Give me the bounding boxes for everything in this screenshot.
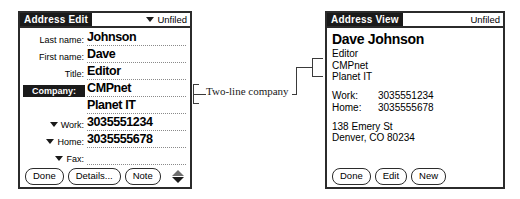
address-view-device: Address View Unfiled Dave Johnson Editor… [325,11,505,189]
field-value-title[interactable]: Editor [87,65,186,80]
done-button[interactable]: Done [332,168,371,185]
contact-address-line1: 138 Emery St [332,121,499,133]
scroll-up-arrow-icon[interactable] [172,170,184,176]
edit-form: Last name: Johnson First name: Dave Titl… [20,28,190,159]
contact-company-line2: Planet IT [332,71,499,83]
field-row-home-phone[interactable]: Home: 3035555678 [23,132,186,148]
edit-button[interactable]: Edit [375,168,407,185]
field-row-first-name[interactable]: First name: Dave [23,47,186,63]
chevron-down-icon [146,17,154,22]
contact-full-name: Dave Johnson [332,31,499,47]
edit-button-bar: Done Details... Note [20,161,190,187]
field-row-work-phone[interactable]: Work: 3035551234 [23,115,186,131]
scroll-control[interactable] [172,170,184,183]
contact-company-line1: CMPnet [332,60,499,72]
home-phone-number: 3035555678 [378,102,499,114]
field-label-home-phone[interactable]: Home: [23,136,87,148]
view-record-body: Dave Johnson Editor CMPnet Planet IT Wor… [327,28,503,159]
field-value-home-phone[interactable]: 3035555678 [87,133,186,148]
field-label-first-name: First name: [23,51,87,63]
contact-title: Editor [332,48,499,60]
field-row-title[interactable]: Title: Editor [23,64,186,80]
contact-home-phone: Home: 3035555678 [332,102,499,114]
view-title-bar: Address View Unfiled [327,13,503,28]
work-phone-label: Work: [332,90,378,102]
field-label-company-selected: Company: [23,85,85,97]
note-button[interactable]: Note [125,168,161,185]
field-value-last-name[interactable]: Johnson [87,31,186,46]
edit-title-bar: Address Edit Unfiled [20,13,190,28]
spacer [332,114,499,121]
field-row-company-line2[interactable]: Planet IT [23,98,186,114]
annotation-label: Two-line company [206,85,289,98]
edit-category-selector[interactable]: Unfiled [146,14,187,26]
field-value-company-line1[interactable]: CMPnet [87,82,186,97]
field-label-last-name: Last name: [23,34,87,46]
field-value-work-phone[interactable]: 3035551234 [87,116,186,131]
field-value-company-line2[interactable]: Planet IT [87,99,186,114]
work-phone-number: 3035551234 [378,90,499,102]
address-edit-device: Address Edit Unfiled Last name: Johnson … [18,11,192,189]
chevron-down-icon[interactable] [50,122,58,127]
field-label-title: Title: [23,68,87,80]
spacer [332,83,499,90]
new-button[interactable]: New [411,168,446,185]
scroll-down-arrow-icon[interactable] [172,177,184,183]
field-label-home-text: Home: [57,137,84,147]
done-button[interactable]: Done [25,168,64,185]
view-button-bar: Done Edit New [327,161,503,187]
field-label-work-text: Work: [61,120,84,130]
home-phone-label: Home: [332,102,378,114]
chevron-down-icon[interactable] [46,139,54,144]
edit-category-label: Unfiled [157,14,187,25]
contact-address-line2: Denver, CO 80234 [332,132,499,144]
field-label-work-phone[interactable]: Work: [23,119,87,131]
view-category-label: Unfiled [470,14,500,26]
details-button[interactable]: Details... [68,168,121,185]
view-panel-title: Address View [327,13,403,26]
field-row-last-name[interactable]: Last name: Johnson [23,30,186,46]
field-row-company[interactable]: Company: CMPnet [23,81,186,97]
edit-panel-title: Address Edit [20,13,92,26]
field-value-first-name[interactable]: Dave [87,48,186,63]
contact-work-phone: Work: 3035551234 [332,90,499,102]
